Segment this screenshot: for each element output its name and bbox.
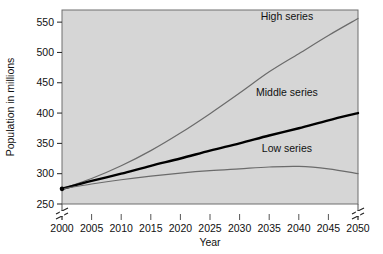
axis-break-gap-right xyxy=(356,211,360,216)
y-axis-title: Population in millions xyxy=(4,58,16,157)
x-tick-label-2050: 2050 xyxy=(346,222,370,234)
x-tick-label-2000: 2000 xyxy=(50,222,74,234)
x-tick-label-2020: 2020 xyxy=(169,222,193,234)
y-tick-label-250: 250 xyxy=(36,198,54,210)
plot-area-background xyxy=(62,10,358,204)
x-tick-label-2010: 2010 xyxy=(110,222,134,234)
y-tick-label-500: 500 xyxy=(36,46,54,58)
chart-container: 250300350400450500550 200020052010201520… xyxy=(0,0,383,254)
x-tick-label-2040: 2040 xyxy=(287,222,311,234)
series-label-low-series: Low series xyxy=(262,142,312,154)
x-axis-title: Year xyxy=(199,236,221,248)
axis-break-gap-left xyxy=(60,211,64,216)
y-tick-label-450: 450 xyxy=(36,76,54,88)
x-tick-label-2045: 2045 xyxy=(317,222,341,234)
series-start-marker xyxy=(60,187,65,192)
x-axis-tick-labels: 2000200520102015202020252030203520402045… xyxy=(50,222,370,234)
series-label-high-series: High series xyxy=(261,10,314,22)
y-tick-label-550: 550 xyxy=(36,16,54,28)
series-label-middle-series: Middle series xyxy=(256,86,318,98)
population-projection-chart: 250300350400450500550 200020052010201520… xyxy=(0,0,383,254)
y-tick-label-350: 350 xyxy=(36,137,54,149)
y-axis-tick-labels: 250300350400450500550 xyxy=(36,16,54,210)
y-tick-label-400: 400 xyxy=(36,107,54,119)
y-tick-label-300: 300 xyxy=(36,167,54,179)
x-tick-label-2015: 2015 xyxy=(139,222,163,234)
x-axis-ticks xyxy=(62,214,358,220)
x-tick-label-2025: 2025 xyxy=(198,222,222,234)
x-tick-label-2035: 2035 xyxy=(258,222,282,234)
y-axis-ticks xyxy=(57,22,62,204)
start-point-marker xyxy=(60,187,65,192)
x-tick-label-2030: 2030 xyxy=(228,222,252,234)
x-tick-label-2005: 2005 xyxy=(80,222,104,234)
